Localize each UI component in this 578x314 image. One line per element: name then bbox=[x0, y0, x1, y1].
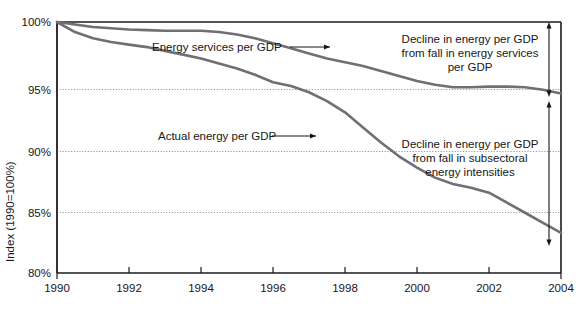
y-tick-label-95: 95% bbox=[28, 84, 51, 96]
annotation-upper-line2: from fall in energy services bbox=[402, 47, 539, 59]
x-tick-label-1994: 1994 bbox=[188, 282, 214, 294]
y-tick-label-80: 80% bbox=[28, 267, 51, 279]
annotation-lower-line1: Decline in energy per GDP bbox=[402, 138, 539, 150]
x-tick-label-2000: 2000 bbox=[404, 282, 430, 294]
x-tick-label-2002: 2002 bbox=[476, 282, 502, 294]
annotation-lower-line3: energy intensities bbox=[425, 166, 515, 178]
series-label-upper: Energy services per GDP bbox=[152, 41, 282, 53]
y-tick-label-100: 100% bbox=[22, 16, 51, 28]
x-tick-label-1992: 1992 bbox=[116, 282, 142, 294]
x-tick-label-2004: 2004 bbox=[548, 282, 574, 294]
y-tick-label-90: 90% bbox=[28, 146, 51, 158]
x-tick-label-1990: 1990 bbox=[44, 282, 70, 294]
chart-container: 100% 95% 90% 85% 80% 1990 1992 1994 1996… bbox=[0, 0, 578, 314]
annotation-lower-line2: from fall in subsectoral bbox=[412, 152, 527, 164]
annotation-upper-line3: per GDP bbox=[448, 61, 493, 73]
x-tick-label-1996: 1996 bbox=[260, 282, 286, 294]
x-tick-label-1998: 1998 bbox=[332, 282, 358, 294]
y-axis-title: Index (1990=100%) bbox=[4, 161, 16, 262]
y-tick-label-85: 85% bbox=[28, 207, 51, 219]
annotation-upper-line1: Decline in energy per GDP bbox=[402, 33, 539, 45]
line-chart-figure: 100% 95% 90% 85% 80% 1990 1992 1994 1996… bbox=[0, 0, 578, 314]
series-label-lower: Actual energy per GDP bbox=[158, 130, 277, 142]
